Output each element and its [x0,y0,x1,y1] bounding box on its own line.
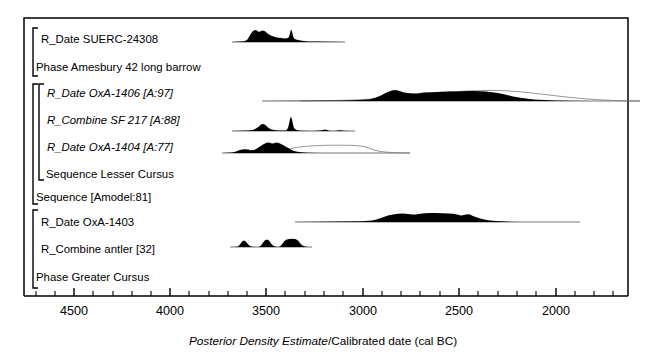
row-sequence-lesser-cursus: Sequence Lesser Cursus [46,168,174,180]
tick-label-4000: 4000 [156,304,184,318]
x-axis-tick-labels: 4500 4000 3500 3000 2500 2000 [60,304,570,318]
oxcal-plot: 4500 4000 3500 3000 2500 2000 Posterior … [0,0,647,363]
tick-label-3500: 3500 [252,304,280,318]
row-label-oxa-1404: R_Date OxA-1404 [A:77] [47,141,174,153]
bracket-lesser-cursus-sequence [39,84,44,180]
x-axis-ticks [36,288,613,296]
tick-label-4500: 4500 [60,304,88,318]
row-oxa-1406: R_Date OxA-1406 [A:97] [47,87,640,101]
row-label-combine-antler: R_Combine antler [32] [41,243,155,255]
x-axis-title-italic: Posterior Density Estimate [189,334,328,348]
row-sf-217: R_Combine SF 217 [A:88] [47,114,355,131]
posterior-distribution-antler [234,239,312,247]
x-axis-title-roman: /Calibrated date (cal BC) [328,334,457,348]
posterior-distribution-oxa-1406 [262,90,640,101]
tick-label-2500: 2500 [445,304,473,318]
row-oxa-1403: R_Date OxA-1403 [41,213,580,228]
posterior-distribution-oxa-1403 [295,213,580,222]
row-label-sequence-amodel: Sequence [Amodel:81] [36,191,151,203]
row-phase-greater-cursus: Phase Greater Cursus [36,271,150,283]
row-label-sequence-lesser-cursus: Sequence Lesser Cursus [46,168,174,180]
row-label-sf-217: R_Combine SF 217 [A:88] [47,114,181,126]
row-label-suerc-24308: R_Date SUERC-24308 [41,33,158,45]
oxcal-plot-svg: 4500 4000 3500 3000 2500 2000 Posterior … [0,0,647,363]
tick-label-3000: 3000 [349,304,377,318]
prior-distribution-oxa-1404 [285,145,410,153]
row-sequence-amodel: Sequence [Amodel:81] [36,191,151,203]
tick-label-2000: 2000 [542,304,570,318]
row-label-oxa-1403: R_Date OxA-1403 [41,216,134,228]
x-axis-title: Posterior Density Estimate/Calibrated da… [189,334,457,348]
posterior-distribution-suerc-24308 [232,30,345,43]
row-combine-antler: R_Combine antler [32] [41,239,312,255]
row-label-phase-amesbury-42: Phase Amesbury 42 long barrow [36,61,201,73]
posterior-distribution-sf-217 [232,117,355,132]
row-suerc-24308: R_Date SUERC-24308 [41,30,345,46]
bracket-model-sequence [33,84,38,204]
row-label-phase-greater-cursus: Phase Greater Cursus [36,271,150,283]
row-label-oxa-1406: R_Date OxA-1406 [A:97] [47,87,174,99]
row-oxa-1404: R_Date OxA-1404 [A:77] [47,141,410,153]
row-phase-amesbury-42: Phase Amesbury 42 long barrow [36,61,201,73]
